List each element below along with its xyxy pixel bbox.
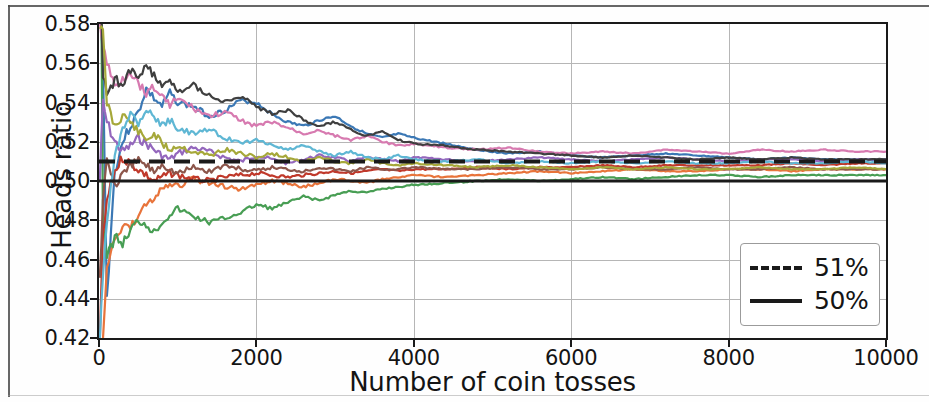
x-tick-mark (570, 340, 572, 347)
x-tick-label: 6000 (545, 348, 597, 369)
legend-label-50: 50% (814, 288, 868, 313)
legend-solid-line-icon (750, 293, 802, 309)
legend-label-51: 51% (814, 255, 868, 280)
x-tick-label: 8000 (702, 348, 754, 369)
y-tick-mark (90, 23, 97, 25)
legend-item-51: 51% (750, 251, 870, 284)
x-axis-label: Number of coin tosses (97, 367, 888, 397)
x-tick-label: 0 (92, 348, 105, 369)
x-tick-label: 2000 (230, 348, 282, 369)
y-tick-mark (90, 62, 97, 64)
y-tick-mark (90, 141, 97, 143)
x-tick-mark (413, 340, 415, 347)
y-tick-mark (90, 219, 97, 221)
legend-item-50: 50% (750, 284, 870, 317)
y-tick-mark (90, 298, 97, 300)
y-tick-mark (90, 180, 97, 182)
y-axis-label: Heads ratio (47, 16, 77, 334)
x-tick-mark (255, 340, 257, 347)
x-tick-mark (728, 340, 730, 347)
legend: 51% 50% (740, 243, 880, 326)
x-tick-mark (98, 340, 100, 347)
coin-toss-convergence-figure: 0.420.440.460.480.500.520.540.560.58 020… (0, 0, 929, 402)
x-tick-label: 10000 (853, 348, 918, 369)
x-tick-label: 4000 (388, 348, 440, 369)
y-tick-mark (90, 259, 97, 261)
y-tick-mark (90, 102, 97, 104)
legend-dashed-line-icon (750, 260, 802, 276)
y-tick-mark (90, 337, 97, 339)
x-tick-mark (885, 340, 887, 347)
